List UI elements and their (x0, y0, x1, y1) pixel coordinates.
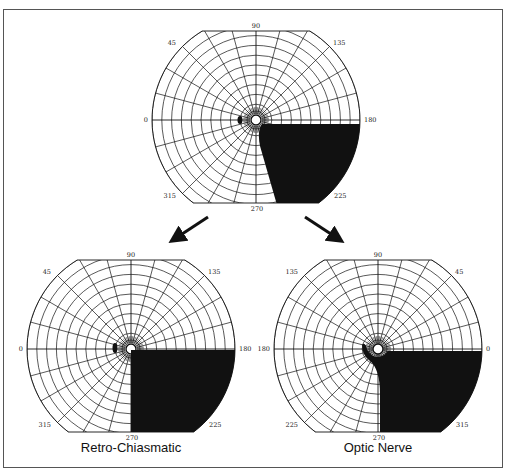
figure-canvas: 90270018045135315225 9027001804513531522… (0, 0, 509, 473)
angle-label-upper-left: 45 (168, 39, 176, 47)
angle-label-lower-left: 315 (39, 421, 51, 429)
angle-label-upper-right: 45 (455, 268, 463, 276)
angle-label-top: 90 (252, 22, 260, 30)
angle-label-upper-right: 135 (333, 39, 345, 47)
angle-label-lower-right: 225 (209, 421, 221, 429)
angle-label-top: 90 (127, 251, 135, 259)
angle-label-upper-right: 135 (208, 268, 220, 276)
arrows (176, 217, 337, 238)
angle-label-upper-left: 135 (286, 268, 298, 276)
visual-field-chart-optic-nerve: 90270180013545225315 (258, 240, 491, 458)
angle-label-lower-right: 315 (456, 421, 468, 429)
angle-label-lower-left: 315 (164, 192, 176, 200)
angle-label-upper-left: 45 (43, 268, 51, 276)
angle-label-left: 0 (19, 345, 23, 353)
angle-label-right: 0 (486, 345, 490, 353)
arrow-to-retro-chiasmatic-icon (176, 217, 208, 238)
angle-label-left: 180 (258, 345, 270, 353)
visual-field-chart-top: 90270018045135315225 (144, 11, 377, 229)
angle-label-bottom: 270 (251, 205, 263, 213)
caption-retro-chiasmatic: Retro-Chiasmatic (81, 440, 182, 455)
angle-label-right: 180 (239, 345, 251, 353)
arrow-to-optic-nerve-icon (305, 217, 337, 238)
angle-label-top: 90 (374, 251, 382, 259)
caption-optic-nerve: Optic Nerve (344, 440, 413, 455)
visual-field-chart-retro-chiasmatic: 90270018045135315225 (19, 240, 252, 458)
angle-label-lower-right: 225 (334, 192, 346, 200)
angle-label-lower-left: 225 (286, 421, 298, 429)
angle-label-left: 0 (144, 116, 148, 124)
angle-label-right: 180 (364, 116, 376, 124)
